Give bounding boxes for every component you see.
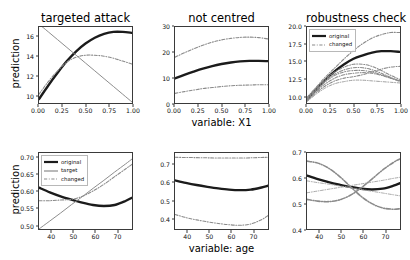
xtick-label: 70 (382, 233, 390, 240)
legend-label: changed (329, 40, 352, 48)
xtick-mark (197, 104, 198, 107)
ytick-mark (172, 52, 175, 53)
xtick-label: 0.00 (167, 107, 181, 114)
xtick-mark (377, 104, 378, 107)
xtick-label: 0.75 (370, 107, 384, 114)
xtick-label: 40 (315, 233, 323, 240)
xtick-mark (38, 104, 39, 107)
xtick-label: 50 (205, 233, 213, 240)
xtick-mark (117, 230, 118, 233)
xtick-mark (61, 104, 62, 107)
x-axis-label: variable: X1 (191, 117, 251, 128)
ytick-mark (36, 225, 39, 226)
legend-line-swatch (44, 168, 58, 174)
legend-item: target (44, 166, 84, 174)
xtick-mark (363, 230, 364, 233)
ytick-mark (172, 26, 175, 27)
ytick-mark (36, 56, 39, 57)
series-changed (39, 55, 132, 94)
ytick-label: 12.5 (288, 76, 302, 83)
panel-not-centred-age: 0.40.50.60.740506070 (174, 152, 269, 230)
legend-label: changed (61, 175, 84, 183)
plot-area-robustness-check-age (306, 152, 401, 230)
xtick-mark (269, 104, 270, 107)
ytick-mark (304, 26, 307, 27)
ytick-mark (36, 174, 39, 175)
ytick-label: 0.4 (292, 227, 302, 234)
legend-item: original (44, 158, 84, 166)
xtick-mark (95, 230, 96, 233)
ytick-mark (172, 163, 175, 164)
xtick-mark (401, 104, 402, 107)
legend-targeted-attack-age: originaltargetchanged (41, 155, 88, 186)
xtick-mark (341, 230, 342, 233)
ytick-label: 10 (162, 75, 170, 82)
xtick-label: 0.25 (191, 107, 205, 114)
xtick-mark (221, 104, 222, 107)
x-axis-label: variable: age (189, 243, 255, 254)
legend-item: original (312, 32, 352, 40)
legend-label: original (61, 158, 81, 166)
legend-line-swatch (44, 176, 58, 182)
xtick-mark (85, 104, 86, 107)
panel-targeted-attack-age: 0.500.550.600.650.7040506070originaltarg… (38, 152, 133, 230)
xtick-mark (109, 104, 110, 107)
xtick-label: 40 (183, 233, 191, 240)
panel-targeted-attack-x1: targeted attack101214160.000.250.500.751… (38, 26, 133, 104)
xtick-mark (245, 104, 246, 107)
ytick-label: 0.7 (292, 149, 302, 156)
ytick-mark (304, 61, 307, 62)
series-changed-4 (307, 70, 400, 99)
ytick-label: 10.0 (288, 93, 302, 100)
ytick-label: 0.70 (20, 154, 34, 161)
xtick-label: 0.50 (347, 107, 361, 114)
legend-item: changed (312, 40, 352, 48)
xtick-label: 0.25 (323, 107, 337, 114)
series-target (39, 27, 132, 102)
ytick-label: 10 (26, 93, 34, 100)
xtick-label: 0.50 (79, 107, 93, 114)
y-axis-label: prediction (10, 157, 21, 223)
series-changed-lower (175, 215, 268, 226)
panel-not-centred-x1: not centred01020300.000.250.500.751.00 (174, 26, 269, 104)
xtick-label: 60 (360, 233, 368, 240)
xtick-label: 0.75 (238, 107, 252, 114)
series-original (39, 188, 132, 206)
ytick-label: 30 (162, 23, 170, 30)
xtick-mark (51, 230, 52, 233)
legend-line-swatch (312, 33, 326, 39)
xtick-label: 60 (92, 233, 100, 240)
legend-label: original (329, 32, 349, 40)
series-original (175, 61, 268, 79)
ytick-mark (304, 178, 307, 179)
ytick-mark (304, 43, 307, 44)
ytick-label: 20 (162, 49, 170, 56)
series-changed-upper (175, 37, 268, 57)
ytick-label: 0.50 (20, 222, 34, 229)
xtick-mark (385, 230, 386, 233)
xtick-mark (253, 230, 254, 233)
plot-area-not-centred-age (174, 152, 269, 230)
ytick-mark (304, 230, 307, 231)
ytick-label: 0.65 (20, 171, 34, 178)
ytick-mark (36, 208, 39, 209)
xtick-label: 0.75 (102, 107, 116, 114)
y-axis-label: prediction (10, 31, 21, 97)
xtick-mark (329, 104, 330, 107)
ytick-label: 20.0 (288, 23, 302, 30)
xtick-mark (73, 230, 74, 233)
ytick-label: 0.55 (20, 205, 34, 212)
ytick-label: 0.7 (160, 160, 170, 167)
xtick-label: 1.00 (126, 107, 140, 114)
ytick-mark (304, 96, 307, 97)
xtick-label: 1.00 (262, 107, 276, 114)
ytick-mark (172, 182, 175, 183)
ytick-mark (36, 36, 39, 37)
ytick-mark (36, 191, 39, 192)
ytick-label: 0.5 (160, 197, 170, 204)
xtick-label: 40 (47, 233, 55, 240)
ytick-mark (172, 78, 175, 79)
xtick-mark (187, 230, 188, 233)
ytick-label: 12 (26, 73, 34, 80)
xtick-mark (133, 104, 134, 107)
